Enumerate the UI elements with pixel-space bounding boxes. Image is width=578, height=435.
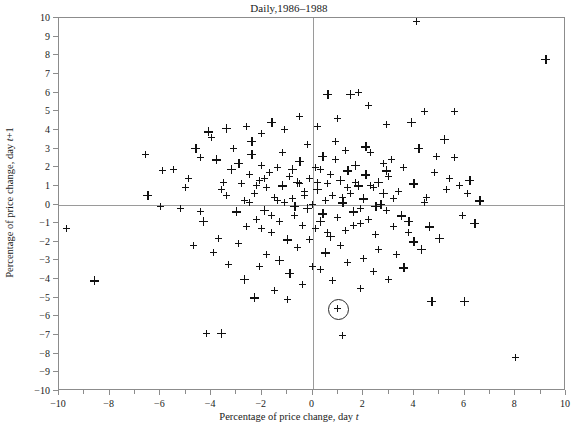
data-point: [379, 189, 388, 198]
data-point: [285, 269, 294, 278]
y-tick: [53, 92, 58, 93]
data-point: [251, 190, 258, 197]
data-point: [355, 89, 362, 96]
data-point: [230, 145, 237, 152]
data-point: [177, 205, 184, 212]
y-tick: [53, 185, 58, 186]
data-point: [382, 166, 391, 175]
data-point: [253, 182, 260, 189]
data-point: [250, 293, 259, 302]
data-point: [314, 123, 321, 130]
data-point: [409, 179, 418, 188]
data-point: [372, 231, 379, 238]
data-point: [210, 249, 217, 256]
y-tick: [53, 222, 58, 223]
data-point: [399, 263, 408, 272]
data-point: [197, 154, 204, 161]
data-point: [443, 186, 450, 193]
data-point: [190, 242, 197, 249]
data-point: [512, 354, 519, 361]
y-tick-label: 8: [45, 49, 50, 60]
data-point: [470, 219, 479, 228]
data-point: [299, 222, 306, 229]
data-point: [385, 173, 392, 180]
data-point: [197, 208, 204, 215]
data-point: [393, 251, 400, 258]
data-point: [354, 181, 363, 190]
y-tick: [53, 54, 58, 55]
data-point: [212, 155, 221, 164]
data-point: [451, 108, 458, 115]
data-point: [170, 166, 177, 173]
data-point: [278, 181, 287, 190]
data-point: [240, 275, 249, 284]
data-point: [367, 149, 374, 156]
y-tick-label: 0: [45, 198, 50, 209]
data-point: [359, 194, 368, 203]
data-point: [413, 18, 420, 25]
data-point: [258, 162, 265, 169]
data-point: [337, 242, 344, 249]
data-point: [304, 141, 311, 148]
data-point: [279, 149, 286, 156]
y-tick-label: 3: [45, 142, 50, 153]
y-tick: [53, 241, 58, 242]
x-tick: [261, 390, 262, 395]
y-tick: [53, 371, 58, 372]
y-tick-label: 5: [45, 105, 50, 116]
data-point: [314, 179, 321, 186]
data-point: [266, 169, 273, 176]
data-point: [261, 175, 268, 182]
data-point: [425, 222, 434, 231]
data-point: [234, 159, 243, 168]
data-point: [159, 167, 166, 174]
data-point: [342, 147, 349, 154]
data-point: [199, 217, 208, 226]
data-point: [344, 184, 351, 191]
y-tick: [53, 129, 58, 130]
data-point: [143, 191, 152, 200]
x-tick-minor: [185, 390, 186, 394]
x-tick-label: −4: [205, 398, 216, 409]
data-point: [344, 259, 351, 266]
x-tick-label: −2: [255, 398, 266, 409]
data-point: [301, 188, 308, 195]
data-point: [90, 276, 99, 285]
y-tick-label: 6: [45, 86, 50, 97]
data-point: [227, 165, 236, 174]
data-point: [351, 161, 360, 170]
x-tick-minor: [134, 390, 135, 394]
y-tick: [53, 204, 58, 205]
data-point: [286, 173, 293, 180]
x-tick-label: −10: [50, 398, 66, 409]
data-point: [371, 202, 380, 211]
data-point: [334, 115, 341, 122]
data-point: [375, 246, 382, 253]
scatter-plot-figure: Daily,1986–1988 −10−8−6−4−20246810 −10−9…: [0, 0, 578, 435]
zero-line-vertical: [313, 18, 314, 389]
data-point: [465, 176, 474, 185]
data-point: [290, 202, 299, 211]
y-tick-label: −10: [34, 385, 50, 396]
data-point: [433, 153, 440, 160]
data-point: [357, 285, 364, 292]
data-point: [225, 261, 232, 268]
x-tick-minor: [438, 390, 439, 394]
data-point: [185, 175, 192, 182]
y-tick-label: 1: [45, 179, 50, 190]
y-tick-label: −1: [39, 217, 50, 228]
plot-area: [58, 17, 565, 390]
data-point: [334, 214, 341, 221]
data-point: [256, 177, 263, 184]
data-point: [296, 180, 303, 187]
data-point: [423, 194, 430, 201]
data-point: [260, 206, 269, 215]
data-point: [317, 166, 324, 173]
data-point: [343, 166, 352, 175]
data-point: [409, 237, 418, 246]
x-tick: [565, 390, 566, 395]
data-point: [247, 137, 256, 146]
x-tick-label: 8: [512, 398, 517, 409]
x-tick-minor: [286, 390, 287, 394]
highlighted-point-circle: [328, 299, 349, 320]
